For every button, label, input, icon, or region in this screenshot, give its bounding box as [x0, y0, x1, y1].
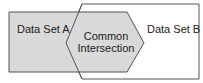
intersection-label-line2: Intersection — [78, 42, 135, 54]
intersection-label-line1: Common — [84, 30, 129, 42]
set-b-label: Data Set B — [147, 23, 200, 35]
overlap-diagram: Data Set A Common Intersection Data Set … — [0, 0, 203, 83]
set-a-label: Data Set A — [17, 23, 70, 35]
